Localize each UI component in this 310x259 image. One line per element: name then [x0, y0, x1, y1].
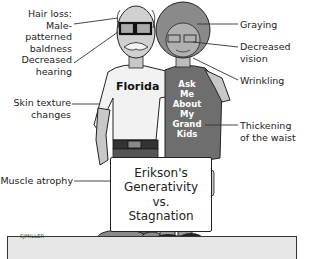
sign-line-1: Erikson's	[134, 166, 188, 181]
woman-shirt-text: Ask Me About My Grand Kids	[166, 79, 208, 139]
label-hair-loss: Hair loss: Male-patterned baldness	[0, 8, 72, 54]
erikson-sign: Erikson's Generativity vs. Stagnation	[110, 157, 212, 232]
label-graying: Graying	[240, 19, 277, 31]
sign-line-3: vs.	[152, 195, 169, 210]
sign-line-2: Generativity	[124, 180, 198, 195]
floor-platform	[7, 236, 297, 259]
man-shirt-text: Florida	[116, 80, 159, 93]
label-decreased-vision: Decreased vision	[240, 41, 310, 64]
label-thickening-waist: Thickening of the waist	[240, 120, 296, 143]
label-skin-texture: Skin texture changes	[13, 97, 71, 120]
label-decreased-hearing: Decreased hearing	[21, 54, 72, 77]
sign-line-4: Stagnation	[128, 209, 193, 224]
label-muscle-atrophy: Muscle atrophy	[0, 175, 73, 187]
label-wrinkling: Wrinkling	[240, 75, 284, 87]
artist-signature: SJMILLER	[20, 233, 44, 239]
